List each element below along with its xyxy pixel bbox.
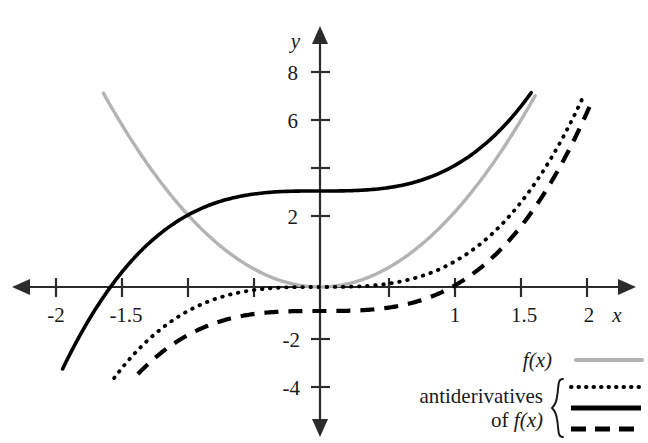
legend-swatch-f — [574, 353, 644, 367]
legend-swatch-solid — [568, 402, 644, 414]
legend-anti-of: of — [491, 408, 514, 432]
y-tick-label--4: -4 — [283, 376, 301, 400]
y-axis-arrow-up — [312, 26, 328, 44]
curve-antiderivative-cminus1 — [138, 104, 591, 374]
legend-row-f: f(x) — [394, 345, 644, 375]
legend-swatches-antiderivatives — [568, 377, 644, 439]
x-axis-arrow-left — [12, 279, 30, 295]
curly-brace-icon — [550, 377, 566, 439]
x-tick-label-2: 2 — [584, 303, 595, 327]
x-tick-label--1.5: -1.5 — [109, 303, 142, 327]
legend-swatch-dotted — [568, 381, 644, 393]
legend-anti-line1: antiderivatives — [419, 384, 543, 408]
legend-anti-fx: f(x) — [514, 408, 543, 432]
y-tick-label-8: 8 — [288, 61, 299, 85]
x-tick-label-1: 1 — [450, 303, 461, 327]
legend: f(x) antiderivatives of f(x) — [394, 345, 644, 441]
legend-anti-line2: of f(x) — [419, 408, 543, 432]
x-tick-label-1.5: 1.5 — [511, 303, 537, 327]
y-axis-arrow-down — [312, 419, 328, 437]
legend-swatch-dashed — [568, 423, 644, 435]
calculus-graph-figure: -2 -1.5 1 1.5 2 x 8 6 2 -2 -4 y f(x) — [0, 0, 648, 443]
y-tick-label-6: 6 — [288, 109, 299, 133]
legend-row-antiderivatives: antiderivatives of f(x) — [394, 375, 644, 441]
y-tick-label-2: 2 — [288, 205, 299, 229]
legend-antiderivatives-text: antiderivatives of f(x) — [419, 384, 543, 433]
x-axis-label: x — [611, 303, 622, 327]
x-axis-arrow-right — [618, 279, 636, 295]
y-tick-label--2: -2 — [283, 328, 301, 352]
x-tick-label--2: -2 — [47, 303, 65, 327]
legend-f-label: f(x) — [523, 348, 552, 373]
y-axis-label: y — [289, 29, 301, 53]
